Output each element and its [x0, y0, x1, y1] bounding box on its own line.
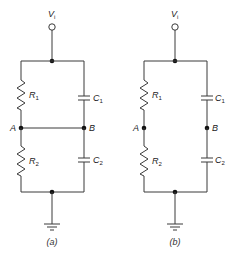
r1-label-b: R1: [152, 90, 163, 101]
c1-label-a: C1: [93, 93, 104, 104]
r1-label-a: R1: [29, 90, 40, 101]
ground-icon-b: [167, 224, 183, 230]
r2-label-a: R2: [29, 156, 40, 167]
input-terminal-a: [49, 24, 55, 30]
node-a-label-a: A: [9, 123, 16, 133]
resistor-r1-b: [140, 80, 148, 110]
source-label-b: Vi: [171, 9, 178, 20]
ground-icon-a: [44, 224, 60, 230]
c2-label-b: C2: [215, 155, 226, 166]
node-b-label-a: B: [89, 123, 95, 133]
caption-b: (b): [170, 237, 181, 247]
input-terminal-b: [172, 24, 178, 30]
node-b-label-b: B: [212, 123, 218, 133]
r2-label-b: R2: [152, 156, 163, 167]
resistor-r2-a: [17, 146, 25, 176]
resistor-r2-b: [140, 146, 148, 176]
caption-a: (a): [47, 237, 58, 247]
circuit-panel-a: Vi R1 C1 A B R2 C2: [9, 9, 104, 247]
resistor-r1-a: [17, 80, 25, 110]
source-label-a: Vi: [48, 9, 55, 20]
c2-label-a: C2: [93, 155, 104, 166]
c1-label-b: C1: [215, 93, 226, 104]
circuit-panel-b: Vi R1 C1 A B R2 C2: [132, 9, 226, 247]
node-a-label-b: A: [132, 123, 139, 133]
circuit-figure: Vi R1 C1 A B R2 C2: [0, 0, 235, 256]
